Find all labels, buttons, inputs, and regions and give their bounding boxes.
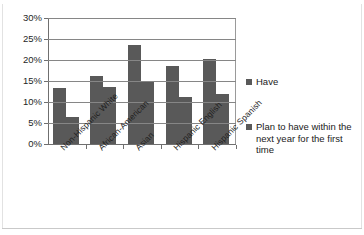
plot-area: 0%5%10%15%20%25%30% (48, 18, 236, 144)
bar (166, 66, 179, 144)
legend-swatch-icon (246, 124, 252, 130)
y-tick-label: 5% (28, 118, 42, 128)
legend-label: Have (256, 76, 278, 88)
bar-chart: 0%5%10%15%20%25%30% Non-Hispanic WhiteAf… (0, 0, 364, 235)
legend-label: Plan to have within the next year for th… (256, 121, 360, 156)
y-tick-mark (44, 18, 48, 19)
legend-swatch-icon (246, 79, 252, 85)
y-gridline (48, 123, 236, 124)
y-tick-label: 30% (23, 13, 42, 23)
x-tick-mark (236, 145, 237, 149)
y-tick-mark (44, 102, 48, 103)
y-gridline (48, 39, 236, 40)
y-tick-mark (44, 81, 48, 82)
y-tick-label: 0% (28, 139, 42, 149)
y-tick-label: 10% (23, 97, 42, 107)
bar (53, 88, 66, 144)
y-gridline (48, 18, 236, 19)
y-tick-mark (44, 60, 48, 61)
x-axis-labels: Non-Hispanic WhiteAfrican-AmericanAsianH… (48, 146, 236, 226)
y-gridline (48, 60, 236, 61)
y-tick-label: 15% (23, 76, 42, 86)
y-tick-label: 25% (23, 34, 42, 44)
legend-entry-have: Have (246, 76, 278, 88)
y-tick-mark (44, 123, 48, 124)
legend-entry-plan-to-have: Plan to have within the next year for th… (246, 121, 360, 156)
y-gridline (48, 81, 236, 82)
y-tick-mark (44, 39, 48, 40)
y-tick-label: 20% (23, 55, 42, 65)
